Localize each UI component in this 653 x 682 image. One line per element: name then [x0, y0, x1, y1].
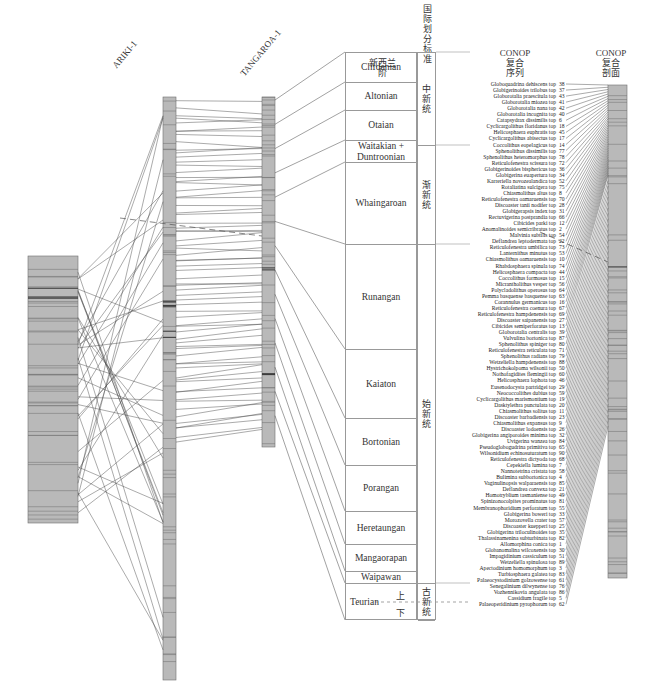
header-conop-section: CONOP 复合 剖面 [586, 48, 636, 78]
stage-mangaorapan: Mangaorapan [346, 545, 416, 572]
taxon-row: Palaeoperidinium pyrophorum top62 [479, 600, 571, 609]
stage-kaiaton: Kaiaton [346, 350, 416, 419]
stage-column: ClifdenianAltonianOtaianWaitakian + Dunt… [345, 52, 417, 620]
stage-runangan: Runangan [346, 245, 416, 350]
taxon-name: Palaeoperidinium pyrophorum top [479, 600, 556, 609]
stage-bortonian: Bortonian [346, 419, 416, 466]
series-label: 渐新统 [420, 180, 433, 210]
stage-heretaungan: Heretaungan [346, 512, 416, 545]
header-conop-sequence: CONOP 复合 序列 [490, 48, 540, 78]
teurian-upper-label: 上 [396, 589, 405, 602]
stage-porangan: Porangan [346, 466, 416, 512]
series-cell: 古新统 [418, 584, 435, 621]
stage-waipawan: Waipawan [346, 572, 416, 584]
tangaroa-1-column [262, 97, 275, 447]
stage-altonian: Altonian [346, 83, 416, 111]
series-label: 古新统 [420, 587, 433, 617]
series-cell: 中新统 [418, 53, 435, 146]
taxon-id: 62 [559, 600, 571, 609]
ariki-1-column [163, 97, 176, 680]
conop-composite-column [608, 85, 627, 578]
teurian-lower-label: 下 [396, 606, 405, 619]
series-column: 中新统渐新统始新统古新统 [417, 52, 436, 620]
stage-teurian: Teurian [346, 584, 416, 621]
ariki-1-column-base [28, 256, 78, 523]
stage-waitakian: Waitakian + Duntroonian [346, 141, 416, 163]
series-label: 中新统 [420, 84, 433, 114]
stage-otaian: Otaian [346, 111, 416, 141]
stage-clifdenian: Clifdenian [346, 53, 416, 83]
series-label: 始新统 [420, 399, 433, 429]
stage-whaingaroan: Whaingaroan [346, 163, 416, 245]
series-cell: 渐新统 [418, 146, 435, 245]
series-cell: 始新统 [418, 245, 435, 584]
